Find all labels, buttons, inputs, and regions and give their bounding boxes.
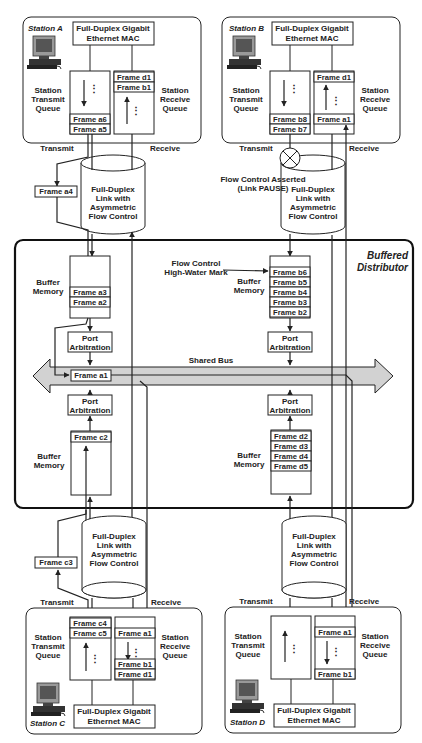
svg-text:Frame a1: Frame a1 [74, 371, 108, 380]
svg-text:Asymmetric: Asymmetric [291, 550, 337, 559]
svg-text:Station: Station [361, 86, 388, 95]
svg-text:Asymmetric: Asymmetric [290, 203, 336, 212]
station-d-panel: ⋮ Station Transmit Queue Frame a1 ⋮ Fram… [225, 607, 401, 733]
svg-text:Buffer: Buffer [36, 278, 60, 287]
svg-text:Receive: Receive [151, 598, 182, 607]
svg-text:Frame a5: Frame a5 [73, 125, 107, 134]
svg-text:Frame b7: Frame b7 [273, 125, 307, 134]
svg-text:⋮: ⋮ [89, 83, 99, 94]
station-d-label: Station D [230, 718, 265, 727]
svg-text:Arbitration: Arbitration [70, 406, 111, 415]
svg-text:Frame a4: Frame a4 [39, 187, 73, 196]
link-cylinder-c: Full-Duplex Link with Asymmetric Flow Co… [82, 516, 146, 598]
svg-text:Full-Duplex: Full-Duplex [291, 185, 335, 194]
svg-text:Flow Control: Flow Control [90, 559, 139, 568]
svg-text:Receive: Receive [360, 95, 391, 104]
svg-text:Queue: Queue [363, 104, 388, 113]
svg-text:Asymmetric: Asymmetric [90, 203, 136, 212]
svg-text:Frame a3: Frame a3 [73, 288, 106, 297]
svg-text:Buffer: Buffer [237, 451, 261, 460]
svg-text:Link with: Link with [297, 541, 332, 550]
svg-text:High-Water Mark: High-Water Mark [164, 268, 228, 277]
svg-text:Queue: Queue [236, 650, 261, 659]
svg-text:Full-Duplex: Full-Duplex [92, 532, 136, 541]
svg-text:Ethernet MAC: Ethernet MAC [87, 34, 140, 43]
svg-text:Transmit: Transmit [229, 95, 263, 104]
svg-text:⋮: ⋮ [289, 83, 299, 94]
svg-text:Frame b1: Frame b1 [318, 670, 353, 679]
svg-text:Full-Duplex: Full-Duplex [91, 185, 135, 194]
svg-text:(Link PAUSE): (Link PAUSE) [238, 184, 289, 193]
svg-text:Queue: Queue [234, 104, 259, 113]
station-receive-queue: Frame d1 Frame b1 ⋮ [114, 71, 154, 134]
svg-text:Receive: Receive [349, 597, 380, 606]
svg-text:Distributor: Distributor [357, 262, 409, 273]
svg-text:Full-Duplex Gigabit: Full-Duplex Gigabit [275, 24, 349, 33]
svg-text:Port: Port [82, 334, 98, 343]
svg-text:Flow Control: Flow Control [289, 212, 338, 221]
svg-text:⋮: ⋮ [90, 653, 100, 664]
svg-text:Transmit: Transmit [31, 642, 65, 651]
svg-text:Frame b2: Frame b2 [273, 308, 307, 317]
svg-text:Receive: Receive [160, 95, 191, 104]
buffer-memory-c: Frame c2 [71, 431, 111, 495]
station-transmit-queue: ⋮ Frame a6 Frame a5 [70, 71, 110, 134]
svg-text:Transmit: Transmit [239, 597, 273, 606]
link-cylinder-d: Full-Duplex Link with Asymmetric Flow Co… [282, 516, 346, 598]
svg-text:Transmit: Transmit [40, 144, 74, 153]
station-a-panel: Station A Full-Duplex Gigabit Ethernet M… [23, 17, 201, 143]
svg-text:⋮: ⋮ [131, 105, 141, 116]
svg-text:Memory: Memory [33, 287, 64, 296]
station-c-panel: Frame c4 Frame c5 ⋮ Station Transmit Que… [26, 608, 202, 734]
svg-text:Frame d4: Frame d4 [274, 452, 309, 461]
svg-text:Station: Station [161, 633, 188, 642]
svg-text:Memory: Memory [34, 461, 65, 470]
svg-text:Buffer: Buffer [237, 277, 261, 286]
diagram-canvas: Station A Full-Duplex Gigabit Ethernet M… [0, 0, 422, 743]
svg-text:Receive: Receive [160, 642, 191, 651]
svg-text:Memory: Memory [234, 286, 265, 295]
svg-text:Station: Station [161, 86, 188, 95]
svg-text:⋮: ⋮ [289, 643, 299, 654]
buffer-memory-d: Frame d2 Frame d3 Frame d4 Frame d5 [271, 430, 311, 494]
station-transmit-queue: Frame c4 Frame c5 ⋮ [70, 617, 111, 680]
svg-text:Ethernet MAC: Ethernet MAC [288, 716, 341, 725]
svg-text:Frame c2: Frame c2 [74, 433, 107, 442]
svg-text:Frame b4: Frame b4 [273, 288, 308, 297]
svg-text:Full-Duplex: Full-Duplex [292, 532, 336, 541]
station-a-label: Station A [28, 24, 63, 33]
svg-text:Station: Station [34, 86, 61, 95]
svg-text:Frame c3: Frame c3 [39, 558, 72, 567]
station-receive-queue: Frame a1 ⋮ Frame b1 [315, 616, 355, 679]
svg-text:Ethernet MAC: Ethernet MAC [286, 34, 339, 43]
svg-text:Transmit: Transmit [31, 95, 65, 104]
svg-text:Frame d1: Frame d1 [117, 73, 152, 82]
svg-text:Station: Station [234, 632, 261, 641]
svg-text:Receive: Receive [150, 144, 181, 153]
svg-text:Frame b1: Frame b1 [117, 83, 152, 92]
svg-text:Flow Control: Flow Control [290, 559, 339, 568]
svg-text:Station: Station [361, 632, 388, 641]
svg-text:Flow Control Asserted: Flow Control Asserted [220, 175, 305, 184]
svg-text:Station: Station [34, 633, 61, 642]
svg-text:Asymmetric: Asymmetric [91, 550, 137, 559]
svg-text:Frame d2: Frame d2 [274, 432, 308, 441]
buffer-memory-b: Frame b6 Frame b5 Frame b4 Frame b3 Fram… [270, 256, 310, 318]
station-transmit-queue: ⋮ [271, 616, 311, 679]
station-c-label: Station C [30, 719, 65, 728]
buffer-memory-a: Frame a3 Frame a2 [70, 256, 110, 318]
svg-text:Frame b3: Frame b3 [273, 298, 307, 307]
svg-text:Frame a1: Frame a1 [118, 629, 152, 638]
svg-text:Link with: Link with [96, 194, 131, 203]
svg-text:Queue: Queue [163, 104, 188, 113]
svg-text:Receive: Receive [349, 144, 380, 153]
svg-text:Full-Duplex Gigabit: Full-Duplex Gigabit [76, 24, 150, 33]
svg-text:⋮: ⋮ [331, 95, 341, 106]
svg-text:Queue: Queue [36, 651, 61, 660]
svg-text:Frame d5: Frame d5 [274, 462, 309, 471]
svg-text:⋮: ⋮ [131, 647, 141, 658]
svg-text:Frame b1: Frame b1 [118, 660, 153, 669]
station-receive-queue: Frame a1 ⋮ Frame b1 Frame d1 [115, 617, 155, 680]
svg-text:Queue: Queue [363, 650, 388, 659]
station-b-panel: Station B Full-Duplex Gigabit Ethernet M… [222, 17, 400, 143]
